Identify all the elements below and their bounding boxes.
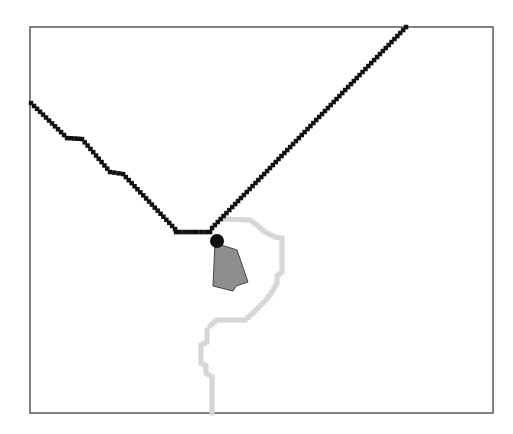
black-path-cell	[195, 230, 200, 235]
black-path-cell	[174, 230, 179, 235]
black-path-cell	[108, 170, 113, 175]
black-path-cell	[112, 170, 117, 175]
canvas-background	[0, 0, 513, 434]
black-path-cell	[182, 230, 187, 235]
black-path-cell	[191, 230, 196, 235]
black-path-cell	[116, 171, 121, 176]
black-path-cell	[404, 25, 409, 30]
black-path-cell	[208, 230, 213, 235]
black-path-cell	[204, 230, 209, 235]
black-path-cell	[199, 230, 204, 235]
path-diagram-canvas	[0, 0, 513, 434]
position-marker-dot	[210, 234, 224, 248]
gray-path-cell	[210, 411, 215, 416]
black-path-cell	[187, 230, 192, 235]
black-path-cell	[178, 230, 183, 235]
